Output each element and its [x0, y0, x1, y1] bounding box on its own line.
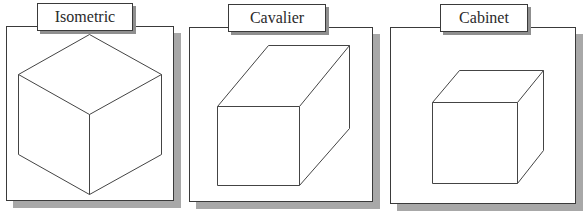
- label-cabinet: Cabinet: [440, 4, 528, 32]
- cube-edge: [518, 71, 544, 103]
- cube-edge: [518, 151, 544, 184]
- cube-edge: [433, 71, 460, 103]
